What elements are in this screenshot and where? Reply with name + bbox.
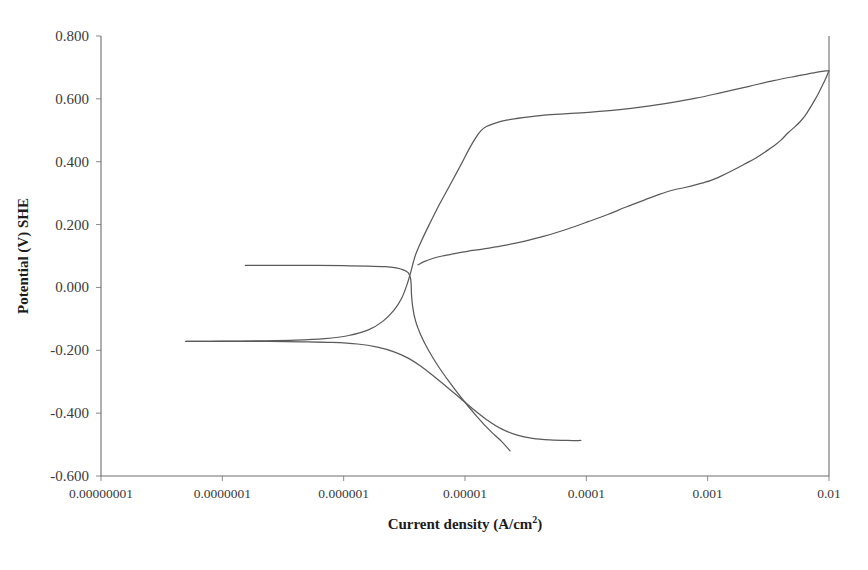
- y-tick-label: 0.200: [55, 217, 89, 233]
- x-tick-label: 0.0000001: [194, 486, 251, 501]
- x-tick-label: 0.000001: [318, 486, 369, 501]
- polarization-chart: 0.8000.6000.4000.2000.000-0.200-0.400-0.…: [0, 0, 868, 570]
- x-tick-label: 0.00001: [443, 486, 487, 501]
- y-tick-label: 0.400: [55, 154, 89, 170]
- y-tick-label: 0.800: [55, 28, 89, 44]
- y-tick-label: -0.400: [50, 405, 89, 421]
- y-axis-title: Potential (V) SHE: [15, 198, 32, 314]
- chart-background: [0, 0, 868, 570]
- x-axis-title: Current density (A/cm2): [388, 514, 543, 533]
- chart-page: 0.8000.6000.4000.2000.000-0.200-0.400-0.…: [0, 0, 868, 570]
- x-tick-label: 0.01: [817, 486, 841, 501]
- x-axis-title-text: Current density (A/cm2): [388, 514, 543, 533]
- x-tick-label: 0.0001: [568, 486, 605, 501]
- y-tick-label: -0.200: [50, 342, 89, 358]
- x-tick-label: 0.001: [692, 486, 722, 501]
- x-tick-label: 0.00000001: [69, 486, 133, 501]
- y-tick-label: 0.600: [55, 91, 89, 107]
- y-tick-label: -0.600: [50, 468, 89, 484]
- y-tick-label: 0.000: [55, 279, 89, 295]
